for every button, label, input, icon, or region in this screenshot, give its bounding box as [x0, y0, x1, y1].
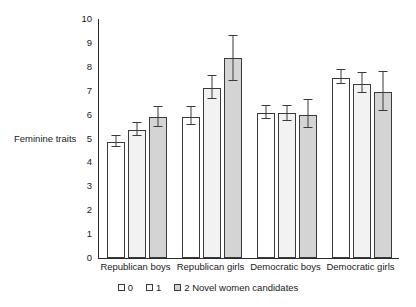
bar-group — [99, 19, 174, 258]
legend-label: 2 Novel women candidates — [184, 282, 298, 293]
bar[interactable] — [182, 117, 200, 258]
x-axis-category-label: Democratic boys — [248, 262, 323, 272]
y-axis-title: Feminine traits — [14, 134, 76, 144]
y-axis-tick-label: 10 — [81, 14, 92, 24]
error-bar-cap — [303, 127, 312, 128]
bar-wrapper — [128, 19, 146, 258]
error-bar-cap — [378, 110, 387, 111]
bar[interactable] — [107, 142, 125, 258]
error-bar-cap — [336, 83, 345, 84]
bar-wrapper — [182, 19, 200, 258]
bar-wrapper — [257, 19, 275, 258]
y-axis-tick-label: 7 — [87, 86, 92, 96]
legend-item[interactable]: 0 — [118, 282, 133, 293]
legend-swatch-icon — [146, 284, 153, 291]
y-axis-tick-label: 6 — [87, 110, 92, 120]
bar-chart: 109876543210 Feminine traits Republican … — [0, 0, 416, 307]
legend-item[interactable]: 1 — [146, 282, 161, 293]
error-bar — [307, 100, 308, 127]
error-bar-cap — [303, 99, 312, 100]
error-bar-cap — [186, 106, 195, 107]
error-bar-cap — [207, 98, 216, 99]
bar[interactable] — [128, 130, 146, 258]
bar[interactable] — [278, 113, 296, 258]
y-axis-tick-label: 8 — [87, 62, 92, 72]
error-bar-cap — [282, 120, 291, 121]
error-bar-cap — [228, 35, 237, 36]
bar[interactable] — [374, 92, 392, 258]
bar-group — [324, 19, 399, 258]
error-bar — [382, 72, 383, 111]
error-bar-cap — [153, 126, 162, 127]
bar[interactable] — [149, 117, 167, 258]
error-bar-cap — [111, 135, 120, 136]
plot-area: 109876543210 — [98, 19, 399, 259]
bar[interactable] — [353, 84, 371, 258]
bar[interactable] — [257, 113, 275, 258]
bar-wrapper — [149, 19, 167, 258]
x-axis-category-label: Republican girls — [173, 262, 248, 272]
error-bar-cap — [336, 69, 345, 70]
bar[interactable] — [224, 58, 242, 258]
y-axis-tick-label: 2 — [87, 205, 92, 215]
bar-wrapper — [374, 19, 392, 258]
legend-swatch-icon — [118, 284, 125, 291]
x-axis-category-label: Democratic girls — [323, 262, 398, 272]
error-bar-cap — [282, 105, 291, 106]
error-bar-cap — [357, 72, 366, 73]
error-bar-cap — [357, 92, 366, 93]
error-bar — [190, 107, 191, 125]
legend-label: 1 — [156, 282, 161, 293]
bar-wrapper — [353, 19, 371, 258]
y-axis-tick-label: 9 — [87, 38, 92, 48]
bar[interactable] — [332, 78, 350, 258]
bar-group — [249, 19, 324, 258]
error-bar — [157, 107, 158, 126]
y-axis-tick-label: 1 — [87, 229, 92, 239]
error-bar — [361, 73, 362, 93]
x-axis-category-labels: Republican boysRepublican girlsDemocrati… — [98, 262, 398, 272]
error-bar-cap — [207, 75, 216, 76]
chart-legend: 012 Novel women candidates — [0, 282, 416, 293]
error-bar-cap — [186, 124, 195, 125]
bar-wrapper — [203, 19, 221, 258]
error-bar — [211, 76, 212, 99]
error-bar-cap — [261, 105, 270, 106]
y-axis-tick-label: 4 — [87, 158, 92, 168]
y-axis-tick-label: 3 — [87, 182, 92, 192]
y-axis-tick-label: 0 — [87, 253, 92, 263]
y-axis-tick-label: 5 — [87, 134, 92, 144]
bar-wrapper — [224, 19, 242, 258]
bar-group — [174, 19, 249, 258]
legend-item[interactable]: 2 Novel women candidates — [174, 282, 298, 293]
bar-wrapper — [278, 19, 296, 258]
error-bar-cap — [228, 80, 237, 81]
error-bar-cap — [132, 122, 141, 123]
error-bar-cap — [111, 146, 120, 147]
legend-label: 0 — [128, 282, 133, 293]
bar[interactable] — [299, 115, 317, 258]
bar-wrapper — [332, 19, 350, 258]
bar-groups — [99, 19, 399, 258]
x-axis-category-label: Republican boys — [98, 262, 173, 272]
error-bar — [232, 36, 233, 81]
legend-swatch-icon — [174, 284, 181, 291]
error-bar-cap — [261, 118, 270, 119]
error-bar-cap — [153, 106, 162, 107]
bar-wrapper — [107, 19, 125, 258]
bar[interactable] — [203, 88, 221, 258]
bar-wrapper — [299, 19, 317, 258]
error-bar-cap — [132, 135, 141, 136]
error-bar-cap — [378, 71, 387, 72]
error-bar — [286, 106, 287, 120]
